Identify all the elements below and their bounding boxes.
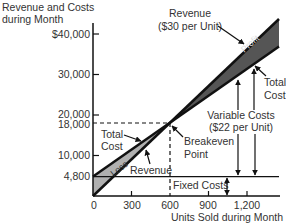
x-tick-1200: 1,200 bbox=[234, 199, 260, 211]
y-tick-10000: 10,000 bbox=[58, 149, 90, 161]
y-ticks bbox=[93, 34, 99, 156]
fixed-costs-label: Fixed Costs bbox=[173, 179, 228, 191]
revenue-annotation-arrow bbox=[218, 26, 244, 44]
breakeven-chart: $40,000 30,000 20,000 18,000 10,000 4,80… bbox=[0, 0, 286, 224]
breakeven-label-line2: Point bbox=[184, 148, 208, 160]
x-tick-900: 900 bbox=[199, 199, 217, 211]
total-cost-right-line1: Total bbox=[264, 76, 286, 88]
y-axis-label-line1: Revenue and Costs bbox=[2, 1, 94, 13]
x-tick-0: 0 bbox=[91, 199, 97, 211]
variable-costs-line1: Variable Costs bbox=[207, 109, 275, 121]
breakeven-arrow bbox=[172, 126, 183, 137]
total-cost-left-line1: Total bbox=[101, 128, 123, 140]
total-cost-left-arrow bbox=[124, 135, 141, 141]
variable-costs-line2: ($22 per Unit) bbox=[209, 121, 273, 133]
revenue-annotation-line1: Revenue bbox=[169, 7, 211, 19]
y-tick-4800: 4,800 bbox=[64, 170, 90, 182]
breakeven-label-line1: Breakeven bbox=[184, 135, 234, 147]
revenue-low-label: Revenue bbox=[130, 164, 172, 176]
total-cost-right-arrow bbox=[255, 66, 266, 76]
y-axis-label-line2: during Month bbox=[2, 13, 63, 25]
x-tick-300: 300 bbox=[123, 199, 141, 211]
total-cost-left-line2: Cost bbox=[101, 140, 123, 152]
revenue-annotation-line2: ($30 per Unit) bbox=[158, 20, 222, 32]
y-tick-18000: 18,000 bbox=[58, 118, 90, 130]
total-cost-right-line2: Cost bbox=[264, 89, 286, 101]
revenue-low-arrow bbox=[146, 150, 150, 164]
x-axis-label: Units Sold during Month bbox=[171, 211, 283, 223]
x-tick-600: 600 bbox=[161, 199, 179, 211]
y-tick-30000: 30,000 bbox=[58, 68, 90, 80]
y-tick-40000: $40,000 bbox=[52, 28, 90, 40]
